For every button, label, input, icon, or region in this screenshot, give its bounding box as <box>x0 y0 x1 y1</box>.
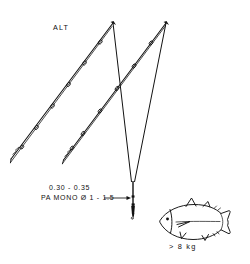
fishing-rod-right <box>63 23 167 164</box>
label-alt: ALT <box>53 24 69 31</box>
label-fish-weight: > 8 kg <box>169 243 197 250</box>
label-line-material: PA MONO Ø 1 - 1.5 <box>41 194 114 201</box>
line-from-left-rod <box>113 23 132 182</box>
trolling-lure <box>131 206 135 219</box>
label-line-diameter: 0.30 - 0.35 <box>49 184 90 191</box>
target-fish <box>160 198 230 241</box>
rod-right-grip <box>65 149 72 157</box>
line-from-right-rod <box>135 23 167 182</box>
monofilament-mainline <box>132 181 135 207</box>
fishing-gear-diagram: ALT 0.30 - 0.35 PA MONO Ø 1 - 1.5 > 8 kg <box>0 0 250 264</box>
diagram-canvas <box>0 0 250 264</box>
fishing-rod-left <box>11 23 114 163</box>
trolling-lines <box>111 21 170 182</box>
